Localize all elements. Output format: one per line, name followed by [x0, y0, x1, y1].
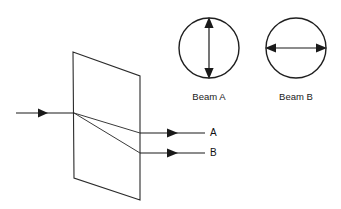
output-beam-a: A	[140, 127, 217, 138]
incident-beam	[16, 109, 74, 118]
output-beam-a-label: A	[210, 127, 217, 138]
output-beam-b: B	[140, 147, 217, 158]
crystal-plate-outline	[73, 52, 140, 200]
output-beam-b-label: B	[210, 147, 217, 158]
beam-b-caption: Beam B	[279, 91, 313, 102]
diagram-canvas: A B Beam A Beam B	[0, 0, 341, 209]
birefringence-figure: A B Beam A Beam B	[0, 0, 341, 209]
incident-beam-arrow-icon	[38, 109, 48, 118]
polarization-diagram-beam-a: Beam A	[179, 17, 239, 102]
internal-rays	[74, 113, 140, 153]
internal-ray-to-a	[74, 113, 140, 133]
polarization-diagram-beam-b: Beam B	[265, 18, 327, 102]
output-beam-b-arrow-icon	[167, 149, 178, 158]
internal-ray-to-b	[74, 113, 140, 153]
output-beam-a-arrow-icon	[167, 129, 178, 138]
crystal-plate	[73, 52, 140, 200]
beam-a-caption: Beam A	[192, 91, 226, 102]
